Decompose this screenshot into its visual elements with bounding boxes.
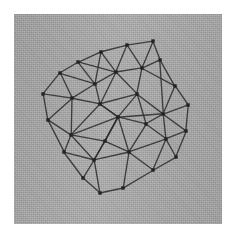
gray-plate <box>14 14 222 224</box>
plate-shading <box>14 14 222 224</box>
plate-texture <box>14 14 222 224</box>
figure-root <box>0 0 236 241</box>
